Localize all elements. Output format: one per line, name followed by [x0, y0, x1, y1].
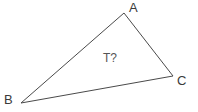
triangle-diagram: A B C T? [0, 0, 198, 112]
vertex-label-c: C [177, 74, 186, 87]
triangle-shape [0, 0, 198, 112]
vertex-label-b: B [4, 93, 13, 106]
interior-label: T? [103, 52, 117, 64]
vertex-label-a: A [129, 1, 138, 14]
triangle-outline [21, 13, 173, 103]
